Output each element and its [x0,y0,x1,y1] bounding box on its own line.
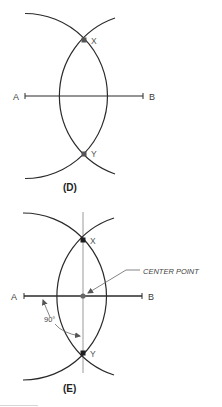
point-x [81,238,86,243]
center-point-leader [88,270,140,293]
label-x: X [91,36,97,46]
center-point-label: CENTER POINT [143,267,200,276]
angle-arc [55,324,80,336]
panel-caption-e: (E) [63,383,76,394]
label-x: X [90,236,96,246]
panel-d: A B X Y (D) [13,14,155,194]
label-b: B [148,292,154,302]
bisector-construction-diagram: A B X Y (D) CENTER POINT 90° A B X Y (E) [0,0,222,407]
panel-caption-d: (D) [63,182,77,193]
label-a: A [11,292,17,302]
label-y: Y [91,149,97,159]
point-x [82,38,87,43]
label-a: A [13,92,19,102]
panel-e: CENTER POINT 90° A B X Y (E) [11,212,200,394]
point-y [82,152,87,157]
center-point [80,293,85,298]
label-y: Y [90,349,96,359]
point-y [81,351,86,356]
angle-label: 90° [44,315,55,324]
label-b: B [149,92,155,102]
